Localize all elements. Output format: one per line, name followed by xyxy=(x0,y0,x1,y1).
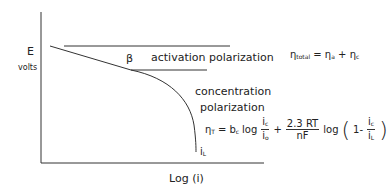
fraction-ic-io: ic io xyxy=(261,116,269,143)
limiting-current-label: iL xyxy=(200,146,206,157)
x-axis-label: Log (i) xyxy=(169,172,204,185)
total-overpotential-equation: ηtotal = ηa + ηc xyxy=(290,49,359,60)
beta-label: β xyxy=(126,52,133,65)
activation-polarization-label: activation polarization xyxy=(151,51,274,64)
y-axis-label: E xyxy=(27,45,34,58)
concentration-label: concentration xyxy=(195,85,271,98)
fraction-ic-il: ic iL xyxy=(367,116,375,143)
polarization-label: polarization xyxy=(200,101,265,114)
eta-t-equation: ηT = bc log ic io + 2.3 RT nF log ( 1- i… xyxy=(205,116,388,143)
fraction-rt-nf: 2.3 RT nF xyxy=(286,118,319,141)
y-axis-unit: volts xyxy=(18,63,37,72)
